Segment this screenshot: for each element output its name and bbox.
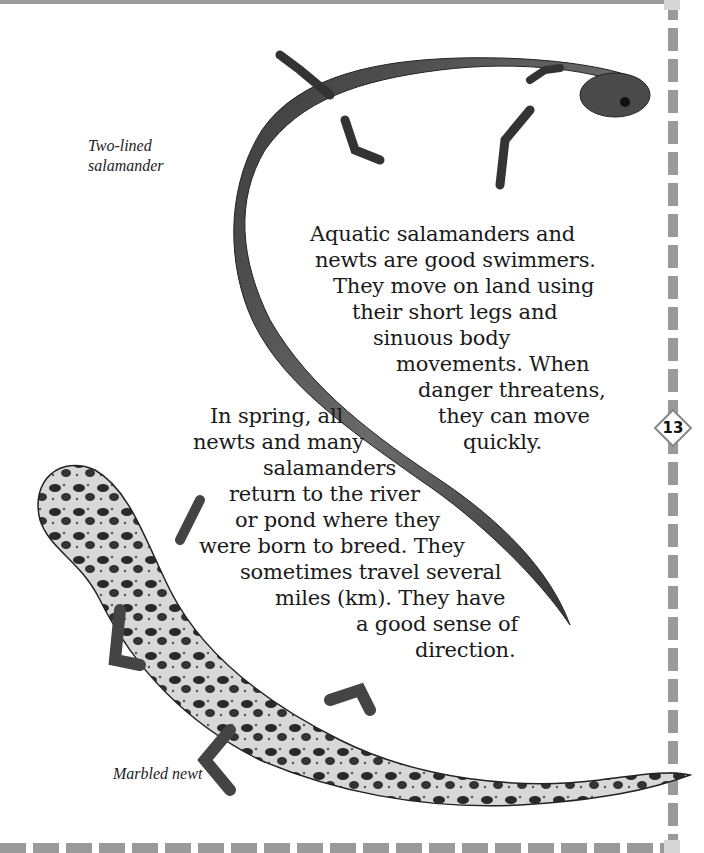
text-line: newts and many xyxy=(193,430,364,456)
text-line: or pond where they xyxy=(235,508,440,534)
text-line: were born to breed. They xyxy=(199,534,465,560)
text-line: they can move xyxy=(438,404,590,430)
text-line: quickly. xyxy=(463,430,542,456)
text-line: a good sense of xyxy=(356,612,518,638)
marbled-newt-illustration xyxy=(0,0,704,853)
text-line: They move on land using xyxy=(333,274,594,300)
caption-line: Two-lined xyxy=(88,136,164,156)
text-line: sometimes travel several xyxy=(240,560,501,586)
text-line: return to the river xyxy=(229,482,420,508)
caption-marbled-newt: Marbled newt xyxy=(113,764,202,784)
text-line: miles (km). They have xyxy=(275,586,505,612)
text-line: their short legs and xyxy=(352,300,557,326)
text-line: salamanders xyxy=(263,456,396,482)
text-line: danger threatens, xyxy=(418,378,605,404)
text-line: newts are good swimmers. xyxy=(315,248,596,274)
text-line: In spring, all xyxy=(210,404,343,430)
text-line: direction. xyxy=(415,638,515,664)
text-line: sinuous body xyxy=(373,326,510,352)
caption-line: salamander xyxy=(88,156,164,176)
text-line: movements. When xyxy=(396,352,589,378)
caption-two-lined-salamander: Two-lined salamander xyxy=(88,136,164,176)
page-number: 13 xyxy=(653,408,693,448)
text-line: Aquatic salamanders and xyxy=(310,222,575,248)
